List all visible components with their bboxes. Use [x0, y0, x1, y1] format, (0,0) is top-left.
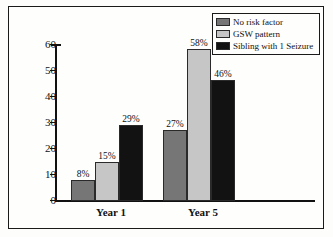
bar-rect — [71, 180, 95, 201]
bar-chart: 60 50 40 30 20 10 0 — [0, 0, 333, 237]
legend-swatch-icon — [216, 42, 230, 50]
y-tick-mark-40 — [50, 96, 56, 97]
y-tick-60: 60 — [0, 39, 56, 50]
legend-item-gsw-pattern[interactable]: GSW pattern — [216, 28, 316, 39]
y-tick-mark-30 — [50, 122, 56, 123]
bar-value-label: 29% — [111, 114, 151, 124]
legend-label: GSW pattern — [233, 29, 280, 39]
bar-rect — [95, 162, 119, 201]
bar-rect — [119, 125, 143, 201]
y-tick-mark-60 — [50, 44, 56, 45]
y-tick-10: 10 — [0, 169, 56, 180]
bars-layer: 8% 15% 29% 27% 58% 46% — [57, 44, 315, 201]
bar-year5-no-risk-factor[interactable]: 27% — [163, 44, 187, 201]
chart-page: 60 50 40 30 20 10 0 — [0, 0, 333, 237]
x-axis-label-year-1: Year 1 — [66, 206, 156, 219]
bar-year1-sibling-with-1-seizure[interactable]: 29% — [119, 44, 143, 201]
legend-item-no-risk-factor[interactable]: No risk factor — [216, 16, 316, 27]
y-tick-mark-20 — [50, 148, 56, 149]
y-tick-0: 0 — [0, 195, 56, 206]
legend-label: Sibling with 1 Seizure — [233, 41, 313, 51]
legend-label: No risk factor — [233, 17, 283, 27]
bar-value-label: 46% — [203, 69, 243, 79]
y-tick-40: 40 — [0, 91, 56, 102]
y-tick-20: 20 — [0, 143, 56, 154]
y-tick-50: 50 — [0, 65, 56, 76]
bar-year5-sibling-with-1-seizure[interactable]: 46% — [211, 44, 235, 201]
bar-rect — [163, 130, 187, 201]
y-tick-mark-50 — [50, 70, 56, 71]
legend-swatch-icon — [216, 18, 230, 26]
bar-year1-no-risk-factor[interactable]: 8% — [71, 44, 95, 201]
x-axis-label-year-5: Year 5 — [158, 206, 248, 219]
y-tick-30: 30 — [0, 117, 56, 128]
y-tick-mark-10 — [50, 174, 56, 175]
chart-legend: No risk factor GSW pattern Sibling with … — [212, 13, 320, 55]
bar-rect — [211, 80, 235, 201]
legend-swatch-icon — [216, 30, 230, 38]
legend-item-sibling-with-1-seizure[interactable]: Sibling with 1 Seizure — [216, 40, 316, 51]
bar-year5-gsw-pattern[interactable]: 58% — [187, 44, 211, 201]
